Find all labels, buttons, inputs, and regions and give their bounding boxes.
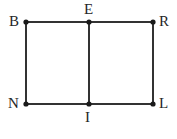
vertex-label-L: L [159,96,168,111]
vertex-dot-L [150,101,155,106]
vertex-label-R: R [159,14,169,29]
vertex-label-I: I [85,110,90,125]
vertex-label-B: B [9,14,19,29]
vertex-dot-N [23,101,28,106]
vertex-dot-B [23,19,28,24]
vertex-label-E: E [84,2,93,17]
vertex-dot-I [86,101,91,106]
vertex-dot-R [150,19,155,24]
geometry-figure: B E R N I L [0,0,177,139]
vertex-dot-E [86,19,91,24]
vertex-label-N: N [8,96,19,111]
segments-group [26,22,153,104]
